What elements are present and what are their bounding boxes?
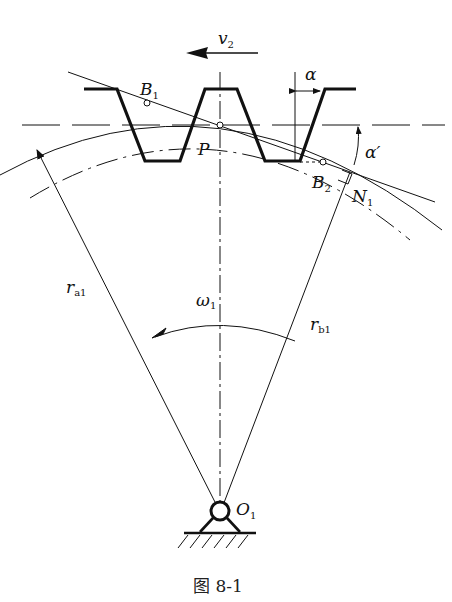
point-b1 [144, 100, 150, 106]
label-alpha: α [305, 64, 317, 84]
radius-rb1 [222, 172, 350, 508]
gear-rack-diagram: v2 B1 P α α′ B2 N1 ra1 rb1 [0, 0, 452, 602]
label-ra1: ra1 [66, 277, 86, 298]
line-of-action [68, 72, 435, 202]
label-rb1: rb1 [310, 314, 331, 335]
radius-ra1 [37, 150, 218, 508]
label-o1: O1 [236, 499, 256, 521]
label-b1: B1 [139, 79, 159, 101]
label-p: P [197, 139, 210, 159]
label-b2: B2 [311, 172, 331, 194]
omega-arrowhead [152, 328, 166, 338]
point-b2 [320, 159, 326, 165]
velocity-label: v2 [218, 28, 234, 50]
label-omega1: ω1 [196, 290, 216, 311]
figure-caption: 图 8-1 [193, 576, 243, 596]
label-n1: N1 [351, 186, 373, 208]
velocity-arrow [186, 47, 258, 59]
alpha-prime-arc [354, 127, 359, 165]
point-p [217, 122, 223, 128]
label-alpha-prime: α′ [365, 142, 380, 162]
omega-arc [155, 325, 295, 341]
base-circle [60, 156, 435, 220]
